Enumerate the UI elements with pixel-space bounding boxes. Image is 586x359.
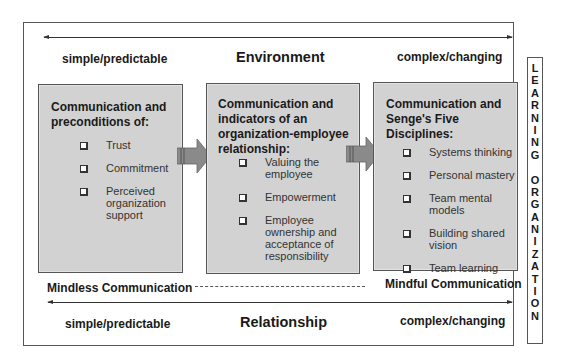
side-letter: L (528, 62, 542, 74)
environment-title: Environment (236, 49, 325, 65)
list-item: Commitment (80, 162, 168, 174)
side-letter: A (528, 87, 542, 99)
list-item: Empowerment (239, 191, 337, 203)
environment-left-label: simple/predictable (62, 52, 167, 66)
learning-organization-label: LEARNING ORGANIZATION (527, 57, 543, 344)
learning-organization-letters: LEARNING ORGANIZATION (528, 62, 542, 322)
checkbox-bullet-icon (403, 265, 411, 273)
side-letter (528, 161, 542, 173)
preconditions-list: Trust Commitment Perceivedorganizationsu… (80, 139, 168, 232)
continuum-dashed-line (195, 286, 365, 287)
five-disciplines-box: Communication and Senge's Five Disciplin… (373, 82, 518, 271)
checkbox-bullet-icon (239, 159, 247, 167)
checkbox-bullet-icon (80, 142, 88, 150)
relationship-indicators-list: Valuing theemployee Empowerment Employee… (239, 156, 337, 273)
list-item: Team learning (403, 262, 515, 274)
side-letter: O (528, 297, 542, 309)
preconditions-box-title: Communication and preconditions of: (51, 100, 166, 130)
arrow-left-icon (47, 300, 53, 304)
list-item: Perceivedorganizationsupport (80, 185, 168, 221)
arrow-right-icon (507, 300, 513, 304)
relationship-indicators-box-title: Communication and indicators of an organ… (218, 97, 349, 157)
list-item: Valuing theemployee (239, 156, 337, 180)
side-letter: I (528, 235, 542, 247)
side-letter: A (528, 211, 542, 223)
five-disciplines-box-title: Communication and Senge's Five Disciplin… (386, 97, 501, 142)
list-item: Team mentalmodels (403, 192, 515, 216)
relationship-title: Relationship (240, 314, 327, 330)
checkbox-bullet-icon (403, 172, 411, 180)
list-item: Employeeownership andacceptance ofrespon… (239, 214, 337, 262)
mindless-communication-label: Mindless Communication (47, 281, 192, 295)
side-letter: G (528, 149, 542, 161)
side-letter: G (528, 198, 542, 210)
checkbox-bullet-icon (80, 188, 88, 196)
environment-right-label: complex/changing (397, 50, 502, 64)
checkbox-bullet-icon (403, 195, 411, 203)
five-disciplines-list: Systems thinking Personal mastery Team m… (403, 146, 515, 285)
relationship-left-label: simple/predictable (65, 317, 170, 331)
side-letter: I (528, 285, 542, 297)
environment-axis-arrow (44, 37, 512, 38)
side-letter: O (528, 174, 542, 186)
checkbox-bullet-icon (403, 230, 411, 238)
preconditions-box: Communication and preconditions of: Trus… (38, 84, 183, 273)
side-letter: A (528, 260, 542, 272)
side-letter: N (528, 310, 542, 322)
list-item: Systems thinking (403, 146, 515, 158)
list-item: Personal mastery (403, 169, 515, 181)
side-letter: N (528, 223, 542, 235)
side-letter: N (528, 136, 542, 148)
mindful-communication-label: Mindful Communication (385, 277, 522, 291)
side-letter: T (528, 273, 542, 285)
checkbox-bullet-icon (80, 165, 88, 173)
relationship-right-label: complex/changing (400, 314, 505, 328)
relationship-indicators-box: Communication and indicators of an organ… (206, 83, 360, 274)
side-letter: Z (528, 248, 542, 260)
relationship-axis-arrow (48, 302, 512, 303)
checkbox-bullet-icon (403, 149, 411, 157)
arrow-right-icon (507, 35, 513, 39)
list-item: Building sharedvision (403, 227, 515, 251)
checkbox-bullet-icon (239, 194, 247, 202)
side-letter: E (528, 74, 542, 86)
checkbox-bullet-icon (239, 217, 247, 225)
arrow-left-icon (43, 35, 49, 39)
side-letter: N (528, 112, 542, 124)
side-letter: R (528, 186, 542, 198)
side-letter: R (528, 99, 542, 111)
list-item: Trust (80, 139, 168, 151)
side-letter: I (528, 124, 542, 136)
